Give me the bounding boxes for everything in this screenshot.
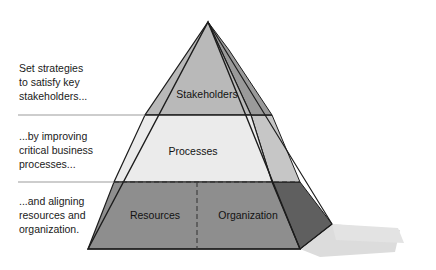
caption-strategies: Set strategies to satisfy key stakeholde… xyxy=(19,62,87,102)
caption-processes-line-1: ...by improving xyxy=(19,130,87,142)
diagram-canvas: Stakeholders Processes Resources Organiz… xyxy=(0,0,436,270)
tier-label-organization: Organization xyxy=(218,209,278,221)
tier-label-processes: Processes xyxy=(168,145,217,157)
tier-label-stakeholders: Stakeholders xyxy=(176,88,237,100)
caption-resources: ...and aligning resources and organizati… xyxy=(19,195,86,235)
caption-resources-line-1: ...and aligning xyxy=(19,195,85,207)
caption-processes: ...by improving critical business proces… xyxy=(19,130,93,170)
caption-resources-line-3: organization. xyxy=(19,223,79,235)
caption-strategies-line-2: to satisfy key xyxy=(19,76,80,88)
caption-processes-line-2: critical business xyxy=(19,144,93,156)
caption-strategies-line-3: stakeholders... xyxy=(19,90,87,102)
caption-processes-line-3: processes... xyxy=(19,158,76,170)
pyramid-diagram: Stakeholders Processes Resources Organiz… xyxy=(0,0,436,270)
pyramid-drop-shadow-tail xyxy=(332,224,404,243)
caption-strategies-line-1: Set strategies xyxy=(19,62,83,74)
caption-resources-line-2: resources and xyxy=(19,209,86,221)
tier-label-resources: Resources xyxy=(130,209,180,221)
